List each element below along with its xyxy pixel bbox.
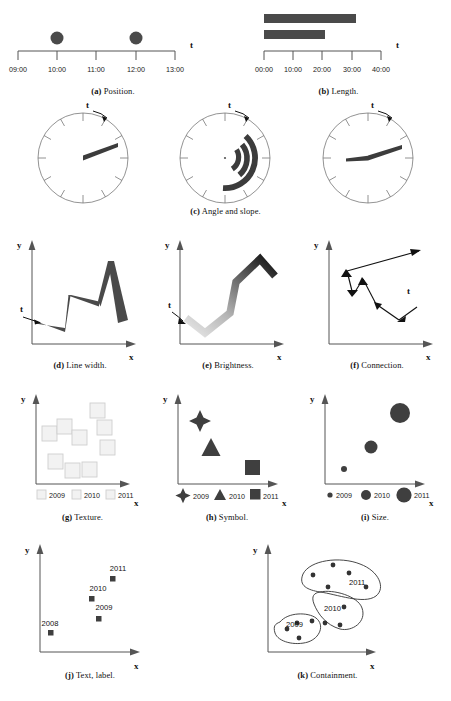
caption-text: Brightness. (214, 360, 254, 370)
caption-text: Line width. (66, 360, 106, 370)
caption-key: (k) (297, 670, 308, 680)
size-marker (341, 466, 347, 472)
point-label: 2011 (110, 564, 126, 573)
legend-swatch (106, 490, 115, 499)
tick-label: 10:00 (284, 65, 302, 74)
axis-label-y: y (310, 394, 315, 404)
legend-label: 2009 (193, 492, 209, 501)
tick-label: 10:00 (48, 65, 66, 74)
caption-angle-slope: (c) Angle and slope. (0, 206, 451, 216)
tick-label: 12:00 (127, 65, 145, 74)
caption-key: (d) (53, 360, 64, 370)
connection-chart: y x t (307, 232, 447, 362)
panel-containment: y x 2011 2010 2009 (k) Containment. (240, 534, 415, 694)
point-label: 2008 (42, 619, 59, 628)
caption-key: (i) (361, 512, 369, 522)
caption-text-label: (j) Text, label. (10, 670, 170, 680)
brightness-polyline (186, 259, 275, 333)
legend-marker-medium (361, 490, 371, 500)
tick-label: 30:00 (343, 65, 361, 74)
legend-label: 2010 (84, 491, 100, 500)
clock-two-hands: t (323, 100, 413, 203)
length-axis (264, 51, 381, 60)
panel-connection: y x t (f) Connection. (307, 232, 447, 382)
legend-marker-star (175, 488, 190, 503)
time-arrow-label: t (20, 304, 23, 314)
caption-text: Angle and slope. (202, 206, 261, 216)
panel-text-label: y x 2008 2009 2010 2011 (j) Text, label. (10, 534, 170, 694)
position-chart: t 09:00 10:00 11:00 12:00 13:00 (0, 6, 226, 86)
tick-label: 11:00 (87, 65, 104, 74)
caption-texture: (g) Texture. (10, 512, 155, 522)
caption-key: (a) (91, 86, 101, 96)
tick-label: 09:00 (9, 65, 27, 74)
triangle-marker (202, 438, 221, 456)
four-point-star-marker (189, 410, 211, 432)
panel-length: t 00:00 10:00 20:00 30:00 40:00 (b) Leng… (226, 6, 451, 102)
texture-legend: 2009 2010 2011 (37, 490, 133, 500)
brightness-chart: y x t (158, 232, 298, 362)
symbol-chart: y x 2009 2010 2011 (152, 388, 302, 514)
axis-label-x: x (429, 498, 434, 508)
legend-swatch (37, 490, 46, 499)
clocks-group: t t (0, 104, 451, 208)
texture-chart: y x 2009 2010 2011 (10, 388, 155, 514)
caption-brightness: (e) Brightness. (158, 360, 298, 370)
legend-label: 2010 (229, 492, 245, 501)
panel-position: t 09:00 10:00 11:00 12:00 13:00 (a) Posi… (0, 6, 226, 102)
symbol-legend: 2009 2010 2011 (175, 488, 278, 503)
point-label: 2009 (96, 603, 113, 612)
legend-swatch (72, 490, 81, 499)
size-chart: y x 2009 2010 2011 (299, 388, 451, 514)
axis-label-t: t (396, 40, 399, 50)
caption-key: (g) (62, 512, 72, 522)
tick-label: 40:00 (372, 65, 390, 74)
bar (264, 30, 325, 39)
axis-label-y: y (314, 240, 319, 250)
containment-chart: y x 2011 2010 2009 (240, 534, 415, 674)
xy-axes (326, 240, 433, 347)
caption-text: Size. (372, 512, 389, 522)
xy-axes (175, 394, 278, 487)
time-arrow-label: t (168, 300, 171, 310)
axis-label-y: y (25, 545, 30, 555)
tick-label: 00:00 (255, 65, 273, 74)
caption-position: (a) Position. (0, 86, 226, 96)
legend-marker-small (327, 492, 332, 497)
axis-label-t: t (228, 100, 231, 110)
caption-line-width: (d) Line width. (10, 360, 150, 370)
clock-concentric-arcs: t (180, 100, 270, 203)
caption-text: Position. (104, 86, 135, 96)
texture-markers (42, 403, 115, 478)
caption-text: Connection. (361, 360, 403, 370)
axis-label-y: y (21, 394, 26, 404)
size-marker (390, 403, 410, 423)
panel-brightness: y x t (e) Brightness. (158, 232, 298, 382)
square-marker (245, 460, 260, 475)
size-marker (365, 441, 378, 454)
tapered-polyline (35, 261, 128, 332)
caption-key: (f) (350, 360, 359, 370)
legend-label: 2009 (336, 491, 352, 500)
caption-size: (i) Size. (299, 512, 451, 522)
legend-label: 2011 (118, 491, 133, 500)
group-label: 2011 (349, 578, 365, 587)
panel-texture: y x 2009 2010 2011 (g) Texture. (10, 388, 155, 528)
position-axis (18, 51, 175, 60)
caption-length: (b) Length. (226, 86, 451, 96)
legend-label: 2011 (263, 492, 278, 501)
xy-axes (322, 394, 425, 487)
line-width-chart: y x t (10, 232, 150, 362)
caption-key: (b) (319, 86, 330, 96)
caption-key: (h) (206, 512, 217, 522)
bar (264, 14, 356, 23)
legend-label: 2010 (374, 491, 390, 500)
caption-key: (e) (202, 360, 212, 370)
clock-single-hand: t (38, 100, 128, 203)
xy-axes (37, 544, 140, 655)
caption-symbol: (h) Symbol. (152, 512, 302, 522)
labeled-point-marker (89, 596, 95, 602)
text-label-chart: y x 2008 2009 2010 2011 (10, 534, 170, 674)
tick-label: 13:00 (166, 65, 184, 74)
caption-text: Symbol. (219, 512, 248, 522)
